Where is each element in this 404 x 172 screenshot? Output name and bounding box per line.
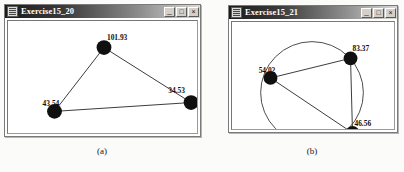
graph-node[interactable] [97, 40, 112, 55]
client-area-exercise15-20: 101.93 34.53 43.54 [7, 20, 198, 134]
minimize-button[interactable]: _ [361, 8, 372, 18]
window-title: Exercise15_21 [245, 6, 361, 19]
minimize-button[interactable]: _ [164, 7, 175, 17]
figure-caption-a: (a) [70, 146, 134, 156]
window-exercise15-20[interactable]: Exercise15_20 _ □ × [4, 4, 201, 137]
figure-page: Exercise15_20 _ □ × [0, 0, 404, 172]
graph-node-labels: 101.93 34.53 43.54 [43, 33, 186, 109]
graph-edge [351, 58, 353, 129]
graph-edges [55, 48, 192, 112]
maximize-button[interactable]: □ [176, 7, 187, 17]
graph-node[interactable] [184, 95, 197, 110]
figure-caption-b: (b) [280, 146, 344, 156]
node-weight-label: 101.93 [107, 33, 128, 42]
triangle-graph-canvas: 101.93 34.53 43.54 [8, 21, 197, 133]
client-area-exercise15-21: 83.37 54.02 46.56 [231, 21, 395, 130]
node-weight-label: 43.54 [43, 99, 60, 108]
graph-edge [55, 103, 192, 112]
graph-edges [271, 58, 353, 129]
node-weight-label: 46.56 [354, 119, 371, 128]
node-weight-label: 54.02 [259, 66, 276, 75]
graph-edge [271, 78, 353, 129]
close-button[interactable]: × [385, 8, 396, 18]
titlebar-exercise15-21[interactable]: Exercise15_21 _ □ × [229, 6, 397, 19]
app-window-icon [231, 7, 242, 18]
circle-graph-canvas: 83.37 54.02 46.56 [232, 22, 394, 129]
node-weight-label: 83.37 [353, 44, 370, 53]
window-controls: _ □ × [361, 8, 396, 18]
node-weight-label: 34.53 [168, 86, 185, 95]
graph-node[interactable] [344, 51, 358, 65]
graph-edge [271, 58, 351, 78]
graph-edge [55, 48, 104, 112]
window-exercise15-21[interactable]: Exercise15_21 _ □ × [228, 5, 398, 133]
window-title: Exercise15_20 [21, 5, 164, 18]
maximize-button[interactable]: □ [373, 8, 384, 18]
close-button[interactable]: × [188, 7, 199, 17]
window-controls: _ □ × [164, 7, 199, 17]
titlebar-exercise15-20[interactable]: Exercise15_20 _ □ × [5, 5, 200, 18]
graph-nodes [264, 51, 360, 129]
app-window-icon [7, 6, 18, 17]
